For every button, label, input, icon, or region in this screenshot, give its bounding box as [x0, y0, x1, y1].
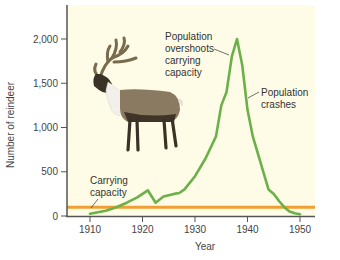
x-tick-label: 1940 — [236, 224, 259, 235]
svg-text:carrying: carrying — [165, 55, 201, 66]
x-tick-label: 1930 — [184, 224, 207, 235]
svg-text:Population: Population — [165, 31, 212, 42]
svg-text:Carrying: Carrying — [90, 175, 128, 186]
population-chart: 05001,0001,5002,000 19101920193019401950… — [0, 0, 340, 260]
y-axis-ticks: 05001,0001,5002,000 — [33, 34, 67, 222]
y-tick-label: 500 — [41, 166, 58, 177]
svg-text:capacity: capacity — [165, 67, 202, 78]
y-tick-label: 1,500 — [33, 78, 58, 89]
svg-text:Population: Population — [261, 87, 308, 98]
svg-text:overshoots: overshoots — [165, 43, 214, 54]
svg-text:capacity: capacity — [90, 187, 127, 198]
y-tick-label: 2,000 — [33, 34, 58, 45]
x-axis-title: Year — [195, 241, 216, 252]
y-tick-label: 1,000 — [33, 122, 58, 133]
x-tick-label: 1920 — [131, 224, 154, 235]
y-tick-label: 0 — [52, 211, 58, 222]
y-axis-title: Number of reindeer — [5, 81, 16, 168]
x-axis-ticks: 19101920193019401950 — [79, 216, 312, 235]
x-tick-label: 1950 — [289, 224, 312, 235]
x-tick-label: 1910 — [79, 224, 102, 235]
svg-text:crashes: crashes — [261, 99, 296, 110]
